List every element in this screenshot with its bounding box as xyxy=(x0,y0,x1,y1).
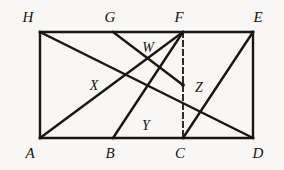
vertex-dot-Z xyxy=(181,83,185,87)
geometry-figure: HGFEABCDWXZY xyxy=(0,0,284,170)
vertex-label-y: Y xyxy=(142,119,150,133)
segment-AF xyxy=(40,32,183,138)
vertex-label-z: Z xyxy=(195,81,203,95)
vertex-label-b: B xyxy=(105,146,114,161)
vertex-dots-layer xyxy=(181,83,185,87)
vertex-label-c: C xyxy=(175,146,185,161)
vertex-label-h: H xyxy=(23,10,34,25)
segment-CE xyxy=(183,32,253,138)
vertex-label-a: A xyxy=(25,146,34,161)
vertex-label-e: E xyxy=(253,10,262,25)
vertex-label-w: W xyxy=(142,41,154,55)
vertex-label-g: G xyxy=(105,10,116,25)
geometry-canvas xyxy=(0,0,284,170)
vertex-label-x: X xyxy=(90,79,99,93)
vertex-label-f: F xyxy=(174,10,183,25)
vertex-label-d: D xyxy=(253,146,264,161)
